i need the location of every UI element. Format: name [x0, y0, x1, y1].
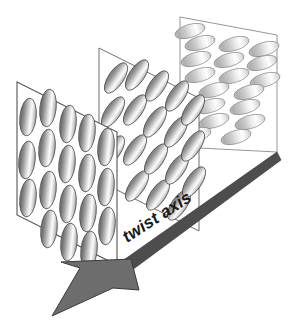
cholesteric-twist-figure: twist axis [0, 0, 294, 330]
figure-canvas: twist axis [0, 0, 294, 330]
twist-axis-arrowhead [52, 259, 139, 316]
